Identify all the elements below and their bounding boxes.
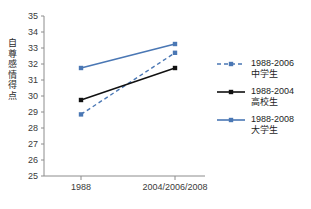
chart-screenshot: 3534333231302928272625 19882004/2006/200… xyxy=(0,0,311,209)
series-marker xyxy=(173,66,177,70)
y-tick-label: 30 xyxy=(28,91,38,101)
legend-item[interactable]: 1988-2004高校生 xyxy=(216,86,311,108)
y-axis-ticks: 3534333231302928272625 xyxy=(28,11,44,181)
series-marker xyxy=(79,112,83,116)
x-tick-label: 2004/2006/2008 xyxy=(142,182,207,192)
legend-item[interactable]: 1988-2006中学生 xyxy=(216,58,311,80)
legend-item[interactable]: 1988-2008大学生 xyxy=(216,114,311,136)
legend-sublabel: 大学生 xyxy=(251,125,311,136)
series-marker xyxy=(173,51,177,55)
legend-row: 1988-2004 xyxy=(216,86,311,97)
y-tick-label: 28 xyxy=(28,123,38,133)
series-marker xyxy=(79,66,83,70)
y-tick-label: 34 xyxy=(28,27,38,37)
chart-series xyxy=(79,42,177,117)
chart-axes xyxy=(44,16,205,176)
y-axis-label-char: 点 xyxy=(6,91,19,102)
x-axis-ticks: 19882004/2006/2008 xyxy=(71,176,208,192)
y-axis-label-char: 得 xyxy=(6,80,19,91)
y-axis-label: 自尊感情得点 xyxy=(6,38,19,101)
y-tick-label: 31 xyxy=(28,75,38,85)
y-tick-label: 32 xyxy=(28,59,38,69)
y-tick-label: 25 xyxy=(28,171,38,181)
series-marker xyxy=(173,42,177,46)
legend-line-swatch xyxy=(216,87,246,97)
legend-row: 1988-2008 xyxy=(216,114,311,125)
legend-row: 1988-2006 xyxy=(216,58,311,69)
y-tick-label: 26 xyxy=(28,155,38,165)
y-tick-label: 29 xyxy=(28,107,38,117)
y-tick-label: 33 xyxy=(28,43,38,53)
y-axis-label-char: 尊 xyxy=(6,49,19,60)
y-tick-label: 27 xyxy=(28,139,38,149)
series-line xyxy=(81,68,175,100)
y-axis-label-char: 自 xyxy=(6,38,19,49)
legend-line-swatch xyxy=(216,59,246,69)
legend-label: 1988-2008 xyxy=(251,114,294,125)
legend-label: 1988-2004 xyxy=(251,86,294,97)
legend-sublabel: 高校生 xyxy=(251,97,311,108)
y-tick-label: 35 xyxy=(28,11,38,21)
y-axis-label-char: 感 xyxy=(6,59,19,70)
y-axis-label-char: 情 xyxy=(6,70,19,81)
series-marker xyxy=(79,98,83,102)
legend-sublabel: 中学生 xyxy=(251,69,311,80)
chart-legend: 1988-2006中学生1988-2004高校生1988-2008大学生 xyxy=(216,58,311,142)
chart-plot-area: 3534333231302928272625 19882004/2006/200… xyxy=(0,0,311,209)
legend-label: 1988-2006 xyxy=(251,58,294,69)
x-tick-label: 1988 xyxy=(71,182,91,192)
series-line xyxy=(81,44,175,68)
legend-line-swatch xyxy=(216,115,246,125)
